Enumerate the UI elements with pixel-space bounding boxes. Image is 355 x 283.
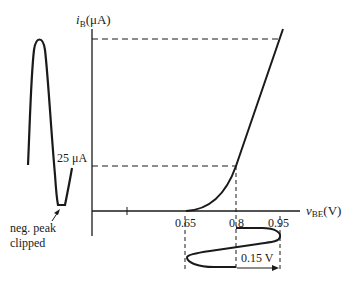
arrowhead-icon: [272, 265, 279, 271]
current-marker-label: 25 μA: [57, 151, 87, 165]
characteristic-curve: [186, 29, 283, 211]
base-current-waveform: [28, 40, 72, 206]
annotation-arrowhead-icon: [54, 209, 60, 215]
swing-label: 0.15 V: [241, 251, 274, 265]
annotation-line-1: neg. peak: [10, 221, 56, 235]
annotation-line-2: clipped: [10, 236, 45, 250]
x-axis-label: vBE(V): [306, 203, 341, 219]
transistor-characteristic-diagram: iB(μA) vBE(V) 0.65 0.8 0.95 0.15 V 25 μA…: [0, 0, 355, 283]
y-axis-label: iB(μA): [76, 12, 111, 29]
